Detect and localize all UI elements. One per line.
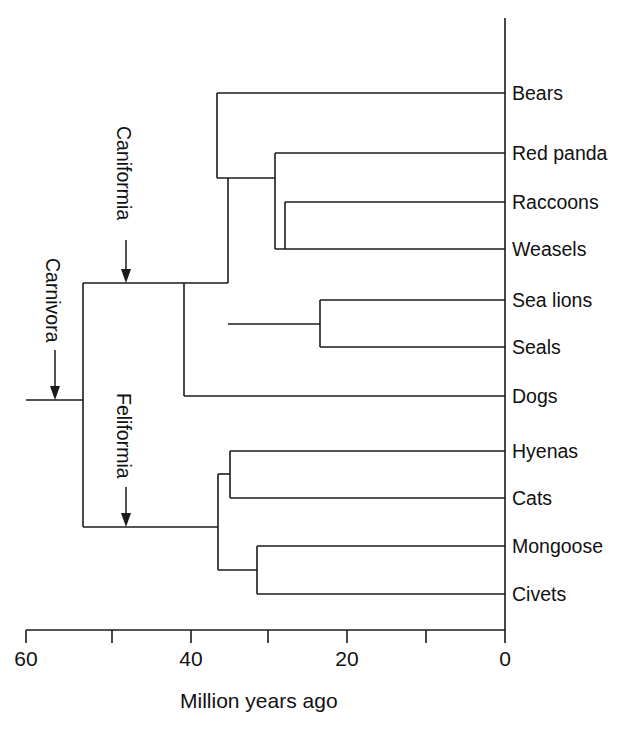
phylogenetic-tree-figure: Bears Red panda Raccoons Weasels Sea lio…	[0, 0, 641, 729]
axis-tick-label-40: 40	[171, 648, 211, 669]
axis-tick-label-60: 60	[6, 648, 46, 669]
taxon-label-civets: Civets	[512, 585, 566, 605]
tree-diagram	[0, 0, 641, 729]
taxon-label-raccoons: Raccoons	[512, 193, 599, 213]
taxon-label-red-panda: Red panda	[512, 144, 607, 164]
caniformia-arrow-head	[121, 269, 131, 283]
taxon-label-cats: Cats	[512, 489, 552, 509]
feliformia-arrow-head	[121, 513, 131, 527]
axis-tick-label-0: 0	[493, 648, 517, 669]
carnivora-arrow-head	[50, 386, 60, 400]
clade-label-caniformia: Caniformia	[114, 126, 134, 220]
axis-tick-label-20: 20	[327, 648, 367, 669]
axis-title: Million years ago	[180, 690, 338, 711]
taxon-label-dogs: Dogs	[512, 387, 558, 407]
taxon-label-seals: Seals	[512, 338, 561, 358]
taxon-label-mongoose: Mongoose	[512, 537, 603, 557]
taxon-label-weasels: Weasels	[512, 240, 586, 260]
taxon-label-hyenas: Hyenas	[512, 442, 578, 462]
taxon-label-bears: Bears	[512, 84, 563, 104]
taxon-label-sea-lions: Sea lions	[512, 291, 592, 311]
clade-label-feliformia: Feliformia	[114, 393, 134, 479]
clade-label-carnivora: Carnivora	[43, 258, 63, 343]
